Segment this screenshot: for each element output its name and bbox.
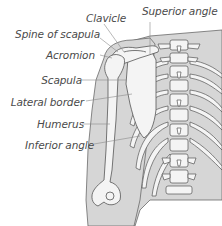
label-spine-of-scapula: Spine of scapula xyxy=(15,28,100,40)
label-lateral-border: Lateral border xyxy=(11,96,84,108)
label-clavicle: Clavicle xyxy=(86,12,126,24)
label-inferior-angle: Inferior angle xyxy=(25,139,94,151)
label-acromion: Acromion xyxy=(46,49,95,61)
label-superior-angle: Superior angle xyxy=(142,5,218,17)
label-humerus: Humerus xyxy=(37,118,84,130)
label-scapula: Scapula xyxy=(41,74,82,86)
